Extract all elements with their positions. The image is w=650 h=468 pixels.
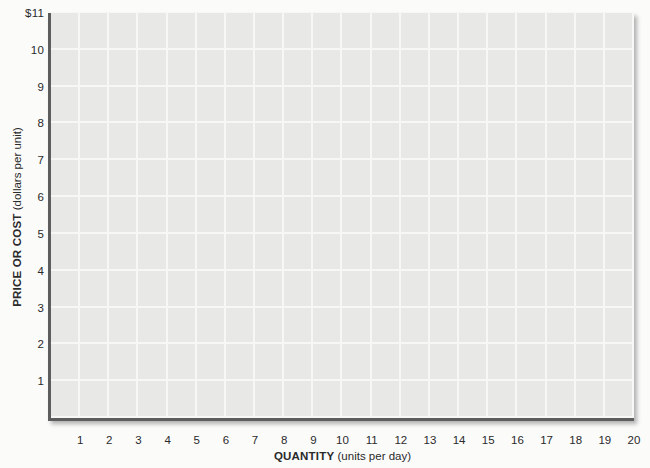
x-tick-label: 11 bbox=[366, 434, 378, 446]
x-tick-label: 3 bbox=[135, 434, 141, 446]
x-tick-label: 17 bbox=[540, 434, 553, 446]
x-tick-label: 9 bbox=[310, 434, 316, 446]
x-tick-label: 13 bbox=[424, 434, 437, 446]
x-axis-title: QUANTITY (units per day) bbox=[51, 450, 634, 462]
y-tick-label: 4 bbox=[37, 265, 44, 277]
x-tick-label: 10 bbox=[336, 434, 349, 446]
y-tick-label: 9 bbox=[37, 81, 44, 93]
x-tick-label: 5 bbox=[194, 434, 200, 446]
x-tick-label: 18 bbox=[569, 434, 582, 446]
y-tick-label: 8 bbox=[37, 117, 44, 129]
y-tick-label: 7 bbox=[37, 154, 44, 166]
x-tick-label: 20 bbox=[628, 434, 641, 446]
x-tick-label: 8 bbox=[281, 434, 287, 446]
x-axis-title-units: (units per day) bbox=[334, 450, 411, 462]
x-tick-label: 1 bbox=[77, 434, 83, 446]
y-axis-tick-labels: $1110987654321 bbox=[0, 13, 44, 418]
x-tick-label: 12 bbox=[394, 434, 407, 446]
y-tick-label: $11 bbox=[25, 7, 44, 19]
x-tick-label: 15 bbox=[482, 434, 495, 446]
x-tick-label: 19 bbox=[598, 434, 611, 446]
y-tick-label: 6 bbox=[37, 191, 44, 203]
x-tick-label: 14 bbox=[453, 434, 466, 446]
x-tick-label: 16 bbox=[511, 434, 524, 446]
y-tick-label: 1 bbox=[37, 375, 44, 387]
y-tick-label: 2 bbox=[37, 338, 44, 350]
x-axis-title-main: QUANTITY bbox=[274, 450, 334, 462]
y-tick-label: 3 bbox=[37, 302, 44, 314]
y-tick-label: 10 bbox=[31, 44, 44, 56]
x-tick-label: 7 bbox=[252, 434, 258, 446]
plot-area[interactable] bbox=[48, 13, 634, 421]
x-tick-label: 6 bbox=[223, 434, 229, 446]
x-tick-label: 4 bbox=[164, 434, 170, 446]
x-tick-label: 2 bbox=[106, 434, 112, 446]
y-tick-label: 5 bbox=[37, 228, 44, 240]
